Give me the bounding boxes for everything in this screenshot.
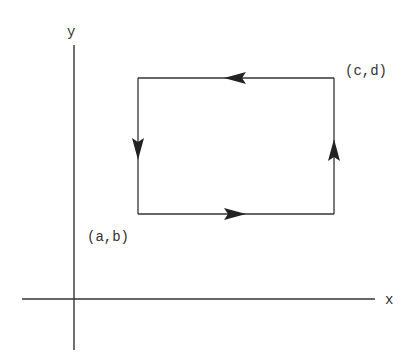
rectangle-path <box>138 78 334 214</box>
diagram-svg <box>0 0 418 364</box>
x-axis-label: x <box>385 293 393 307</box>
y-axis-label: y <box>67 25 75 39</box>
upper-right-corner-label: (c,d) <box>345 64 387 78</box>
lower-left-corner-label: (a,b) <box>87 230 129 244</box>
diagram-canvas: y x (c,d) (a,b) <box>0 0 418 364</box>
